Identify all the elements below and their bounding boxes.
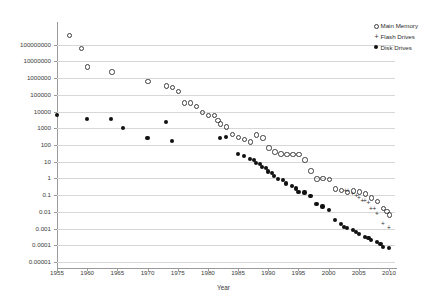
data-point-main-memory [363, 191, 368, 196]
data-point-disk-drives [327, 208, 331, 212]
y-tick-mark [54, 212, 57, 213]
data-point-disk-drives [224, 135, 228, 139]
data-point-main-memory [284, 152, 289, 157]
y-tick-mark [54, 45, 57, 46]
gridline [57, 61, 395, 62]
data-point-disk-drives [387, 246, 391, 250]
data-point-main-memory [236, 135, 241, 140]
data-point-disk-drives [218, 136, 222, 140]
x-tick-mark [87, 268, 88, 271]
gridline [57, 112, 395, 113]
chart-legend: Main Memory + Flash Drives Disk Drives [373, 20, 418, 53]
y-tick-label: 10000000 [23, 58, 51, 64]
data-point-disk-drives [381, 245, 385, 249]
y-tick-label: 1000 [37, 125, 51, 131]
gridline [57, 195, 395, 196]
data-point-main-memory [254, 132, 259, 137]
data-point-main-memory [387, 212, 392, 217]
plot-area [57, 28, 395, 262]
data-point-main-memory [224, 124, 229, 129]
data-point-main-memory [278, 151, 283, 156]
data-point-disk-drives [320, 204, 324, 208]
legend-label: Flash Drives [381, 31, 415, 42]
data-point-main-memory [375, 199, 380, 204]
data-point-main-memory [200, 110, 205, 115]
y-tick-label: 0.01 [39, 209, 51, 215]
data-point-main-memory [109, 69, 114, 74]
data-point-main-memory [67, 33, 72, 38]
data-point-disk-drives [121, 126, 125, 130]
data-point-main-memory [308, 168, 313, 173]
data-point-disk-drives [314, 202, 318, 206]
data-point-disk-drives [284, 181, 288, 185]
data-point-main-memory [272, 149, 277, 154]
x-tick-mark [178, 268, 179, 271]
chart-container: 1000000001000000010000001000001000010001… [0, 0, 447, 300]
data-point-main-memory [170, 85, 175, 90]
y-tick-mark [54, 95, 57, 96]
data-point-disk-drives [369, 238, 373, 242]
x-tick-mark [238, 268, 239, 271]
data-point-disk-drives [242, 154, 246, 158]
data-point-disk-drives [345, 226, 349, 230]
y-tick-mark [54, 178, 57, 179]
y-tick-mark [54, 195, 57, 196]
data-point-main-memory [85, 64, 90, 69]
data-point-main-memory [230, 132, 235, 137]
data-point-main-memory [145, 79, 150, 84]
data-point-main-memory [302, 157, 307, 162]
data-point-disk-drives [145, 136, 149, 140]
data-point-main-memory [333, 186, 338, 191]
legend-item-disk-drives: Disk Drives [373, 42, 418, 53]
legend-label: Main Memory [381, 20, 418, 31]
x-tick-mark [329, 268, 330, 271]
y-tick-mark [54, 262, 57, 263]
y-tick-mark [54, 112, 57, 113]
data-point-main-memory [194, 104, 199, 109]
data-point-main-memory [260, 135, 265, 140]
data-point-disk-drives [109, 117, 113, 121]
x-tick-mark [359, 268, 360, 271]
data-point-main-memory [320, 176, 325, 181]
gridline [57, 178, 395, 179]
open-circle-icon [373, 22, 380, 29]
data-point-disk-drives [170, 139, 174, 143]
y-tick-label: 0.00001 [29, 259, 51, 265]
gridline [57, 45, 395, 46]
y-tick-label: 1000000 [27, 75, 51, 81]
data-point-main-memory [176, 89, 181, 94]
plus-icon: + [373, 33, 380, 40]
data-point-disk-drives [357, 232, 361, 236]
gridline [57, 95, 395, 96]
legend-item-flash-drives: + Flash Drives [373, 31, 418, 42]
y-tick-label: 100000000 [20, 42, 51, 48]
data-point-main-memory [327, 177, 332, 182]
y-tick-label: 1 [48, 175, 51, 181]
x-tick-mark [208, 268, 209, 271]
data-point-disk-drives [85, 117, 89, 121]
data-point-flash-drives [374, 211, 379, 216]
data-point-main-memory [314, 176, 319, 181]
x-tick-mark [268, 268, 269, 271]
data-point-main-memory [290, 152, 295, 157]
data-point-disk-drives [296, 190, 300, 194]
filled-circle-icon [373, 44, 380, 51]
gridline [57, 145, 395, 146]
data-point-disk-drives [333, 218, 337, 222]
data-point-disk-drives [55, 113, 59, 117]
data-point-flash-drives [380, 221, 385, 226]
data-point-main-memory [206, 113, 211, 118]
data-point-main-memory [182, 100, 187, 105]
gridline [57, 262, 395, 263]
x-tick-mark [389, 268, 390, 271]
data-point-main-memory [266, 145, 271, 150]
y-tick-label: 0.0001 [32, 242, 51, 248]
y-tick-label: 0.1 [42, 192, 51, 198]
x-axis-line [57, 268, 397, 269]
y-tick-label: 100000 [30, 92, 51, 98]
data-point-flash-drives [386, 225, 391, 230]
legend-label: Disk Drives [381, 42, 412, 53]
x-tick-mark [298, 268, 299, 271]
y-tick-mark [54, 162, 57, 163]
data-point-disk-drives [164, 120, 168, 124]
